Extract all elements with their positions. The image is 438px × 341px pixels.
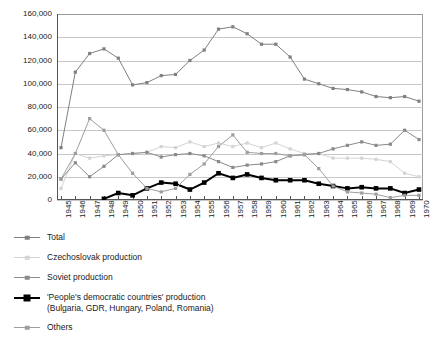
series-marker xyxy=(346,157,349,160)
legend-label: Czechoslovak production xyxy=(47,251,142,263)
series-marker xyxy=(160,74,163,77)
series-marker xyxy=(188,59,191,62)
series-marker xyxy=(130,193,135,198)
series-marker xyxy=(174,146,177,149)
x-axis-tick-label: 1953 xyxy=(180,200,188,218)
series-marker xyxy=(360,140,363,143)
series-marker xyxy=(173,181,178,186)
series-marker xyxy=(88,175,91,178)
series-marker xyxy=(160,155,163,158)
series-marker xyxy=(260,152,263,155)
series-marker xyxy=(203,154,206,157)
x-axis-tick-label: 1956 xyxy=(223,200,231,218)
x-axis-tick-label: 1964 xyxy=(337,200,345,218)
series-marker xyxy=(360,157,363,160)
series-marker xyxy=(217,28,220,31)
legend-swatch-icon xyxy=(14,271,40,284)
legend-item[interactable]: Czechoslovak production xyxy=(14,251,424,264)
series-marker xyxy=(145,151,148,154)
series-marker xyxy=(403,172,406,175)
series-marker xyxy=(403,95,406,98)
series-marker xyxy=(417,194,420,197)
series-marker xyxy=(289,55,292,58)
series-marker xyxy=(289,154,292,157)
series-marker xyxy=(217,141,220,144)
series-marker xyxy=(317,152,320,155)
series-marker xyxy=(359,185,364,190)
legend-swatch-icon xyxy=(14,251,40,264)
chart-legend: TotalCzechoslovak productionSoviet produ… xyxy=(14,231,424,341)
series-marker xyxy=(417,175,420,178)
series-marker xyxy=(160,145,163,148)
series-marker xyxy=(317,167,320,170)
series-marker xyxy=(160,190,163,193)
series-marker xyxy=(231,176,236,181)
x-axis-tick-label: 1949 xyxy=(122,200,130,218)
x-axis-tick-label: 1957 xyxy=(237,200,245,218)
legend-item[interactable]: Others xyxy=(14,321,424,334)
series-marker xyxy=(231,166,234,169)
series-marker xyxy=(102,197,107,200)
y-axis-tick-label: 140,000 xyxy=(23,33,52,41)
series-marker xyxy=(389,96,392,99)
series-marker xyxy=(303,78,306,81)
series-marker xyxy=(59,177,62,180)
legend-item[interactable]: 'People's democratic countries' producti… xyxy=(14,291,424,314)
series-marker xyxy=(174,153,177,156)
series-marker xyxy=(260,162,263,165)
series-marker xyxy=(216,171,221,176)
x-axis-tick-label: 1950 xyxy=(137,200,145,218)
series-marker xyxy=(259,176,264,181)
series-marker xyxy=(260,43,263,46)
legend-swatch-icon xyxy=(14,231,40,244)
series-marker xyxy=(346,190,349,193)
series-marker xyxy=(145,187,148,190)
series-marker xyxy=(403,129,406,132)
series-marker xyxy=(417,187,422,192)
series-marker xyxy=(117,57,120,60)
series-marker xyxy=(288,178,293,183)
series-marker xyxy=(203,48,206,51)
series-marker xyxy=(374,95,377,98)
series-marker xyxy=(188,173,191,176)
series-marker xyxy=(131,152,134,155)
legend-item[interactable]: Total xyxy=(14,231,424,244)
legend-label: 'People's democratic countries' producti… xyxy=(47,291,214,314)
y-axis-tick-label: 0 xyxy=(48,196,52,204)
x-axis-tick-label: 1970 xyxy=(423,200,431,218)
x-axis-tick-label: 1969 xyxy=(409,200,417,218)
series-marker xyxy=(302,178,307,183)
x-axis-tick-label: 1967 xyxy=(380,200,388,218)
x-axis-tick-label: 1946 xyxy=(79,200,87,218)
series-marker xyxy=(289,147,292,150)
series-lines xyxy=(57,14,423,200)
series-marker xyxy=(203,145,206,148)
series-marker xyxy=(188,140,191,143)
series-marker xyxy=(116,191,121,196)
legend-item[interactable]: Soviet production xyxy=(14,271,424,284)
y-axis-tick-label: 100,000 xyxy=(23,80,52,88)
x-axis-tick-label: 1959 xyxy=(265,200,273,218)
series-marker xyxy=(246,151,249,154)
legend-swatch-icon xyxy=(14,291,40,304)
series-marker xyxy=(345,186,350,191)
series-marker xyxy=(274,178,279,183)
x-axis-tick-label: 1947 xyxy=(94,200,102,218)
series-marker xyxy=(246,32,249,35)
series-marker xyxy=(388,186,393,191)
y-axis-tick-label: 160,000 xyxy=(23,10,52,18)
x-axis-tick-label: 1952 xyxy=(165,200,173,218)
y-axis-tick-label: 20,000 xyxy=(28,173,52,181)
series-marker xyxy=(203,162,206,165)
x-axis-tick-label: 1948 xyxy=(108,200,116,218)
series-marker xyxy=(188,152,191,155)
series-marker xyxy=(59,187,62,190)
plot-area: 020,00040,00060,00080,000100,000120,0001… xyxy=(57,14,423,200)
series-marker xyxy=(331,157,334,160)
series-marker xyxy=(331,87,334,90)
series-marker xyxy=(374,158,377,161)
x-axis-tick-label: 1968 xyxy=(394,200,402,218)
series-marker xyxy=(374,186,379,191)
x-axis-tick-label: 1966 xyxy=(366,200,374,218)
series-marker xyxy=(331,147,334,150)
